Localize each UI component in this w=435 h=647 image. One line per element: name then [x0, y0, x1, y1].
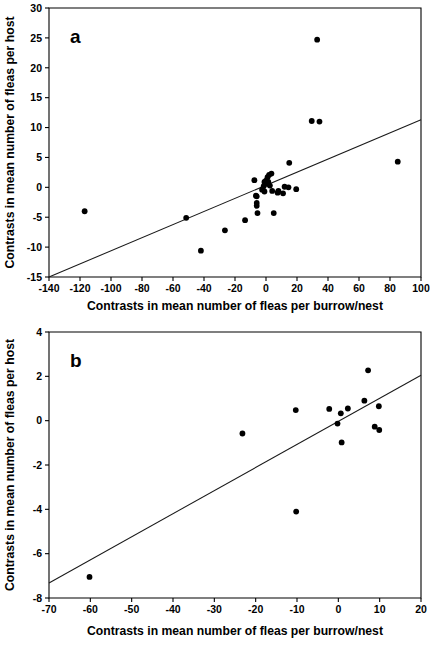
data-point: [361, 398, 367, 404]
data-point: [271, 210, 277, 216]
x-tick-label: -20: [248, 603, 263, 615]
y-tick-label: -10: [27, 241, 42, 253]
y-tick-label: 15: [30, 91, 42, 103]
data-point: [269, 188, 275, 194]
data-point: [365, 367, 371, 373]
x-tick-label: 100: [412, 282, 430, 294]
data-point: [183, 215, 189, 221]
x-tick-label: -80: [134, 282, 149, 294]
panel-letter: a: [70, 26, 81, 47]
data-point: [267, 183, 273, 189]
y-tick-label: -6: [33, 547, 42, 559]
y-tick-label: 5: [36, 151, 42, 163]
y-axis-title: Contrasts in mean number of fleas per ho…: [3, 339, 17, 591]
data-point: [293, 407, 299, 413]
y-tick-label: 20: [30, 62, 42, 74]
data-point: [376, 427, 382, 433]
panel-letter: b: [70, 350, 82, 371]
data-point: [242, 217, 248, 223]
data-point: [293, 186, 299, 192]
x-tick-label: 0: [263, 282, 269, 294]
x-tick-label: -100: [100, 282, 121, 294]
regression-line: [49, 375, 421, 583]
data-point: [269, 171, 275, 177]
scatter-plot-b: -70-60-50-40-30-20-1001020-8-6-4-2024bCo…: [0, 324, 435, 647]
data-point: [326, 406, 332, 412]
data-point: [338, 410, 344, 416]
data-point: [345, 406, 351, 412]
x-tick-label: 80: [384, 282, 396, 294]
x-tick-label: 10: [374, 603, 386, 615]
x-tick-label: 40: [322, 282, 334, 294]
data-point: [82, 208, 88, 214]
x-tick-label: 20: [291, 282, 303, 294]
x-tick-label: -140: [38, 282, 59, 294]
y-axis-title: Contrasts in mean number of fleas per ho…: [3, 17, 17, 269]
data-point: [339, 439, 345, 445]
regression-line: [49, 120, 421, 277]
data-point: [376, 403, 382, 409]
x-tick-label: -60: [165, 282, 180, 294]
data-point: [395, 159, 401, 165]
data-point: [293, 509, 299, 515]
x-tick-label: 0: [335, 603, 341, 615]
y-tick-label: 10: [30, 121, 42, 133]
x-tick-label: 60: [353, 282, 365, 294]
data-point: [255, 210, 261, 216]
data-point: [317, 119, 323, 125]
data-point: [222, 227, 228, 233]
data-point: [251, 177, 257, 183]
x-tick-label: -10: [289, 603, 304, 615]
panel-b: -70-60-50-40-30-20-1001020-8-6-4-2024bCo…: [0, 324, 435, 647]
x-tick-label: -40: [165, 603, 180, 615]
y-tick-label: 0: [36, 414, 42, 426]
y-tick-label: -2: [33, 459, 42, 471]
data-point: [198, 248, 204, 254]
x-tick-label: -70: [41, 603, 56, 615]
y-tick-label: 4: [36, 326, 42, 338]
data-point: [314, 37, 320, 43]
y-tick-label: 30: [30, 2, 42, 14]
x-tick-label: -120: [69, 282, 90, 294]
x-tick-label: -60: [83, 603, 98, 615]
panel-a: -140-120-100-80-60-40-20020406080100-15-…: [0, 0, 435, 324]
plot-frame: [49, 332, 421, 598]
x-tick-label: -20: [227, 282, 242, 294]
data-point: [254, 203, 260, 209]
data-point: [335, 421, 341, 427]
y-tick-label: -8: [33, 592, 42, 604]
data-point: [309, 118, 315, 124]
data-point: [280, 190, 286, 196]
y-tick-label: 25: [30, 32, 42, 44]
data-point: [87, 574, 93, 580]
y-tick-label: -5: [33, 211, 42, 223]
data-point: [240, 431, 246, 437]
data-point: [262, 189, 268, 195]
figure-container: -140-120-100-80-60-40-20020406080100-15-…: [0, 0, 435, 647]
x-axis-title: Contrasts in mean number of fleas per bu…: [87, 299, 383, 313]
x-axis-title: Contrasts in mean number of fleas per bu…: [87, 624, 383, 638]
data-point: [286, 160, 292, 166]
x-tick-label: 20: [415, 603, 427, 615]
x-tick-label: -40: [196, 282, 211, 294]
y-tick-label: 2: [36, 370, 42, 382]
data-point: [286, 184, 292, 190]
plot-frame: [49, 8, 421, 277]
y-tick-label: 0: [36, 181, 42, 193]
scatter-plot-a: -140-120-100-80-60-40-20020406080100-15-…: [0, 0, 435, 324]
data-point: [254, 193, 260, 199]
y-tick-label: -4: [33, 503, 42, 515]
x-tick-label: -30: [207, 603, 222, 615]
y-tick-label: -15: [27, 271, 42, 283]
x-tick-label: -50: [124, 603, 139, 615]
